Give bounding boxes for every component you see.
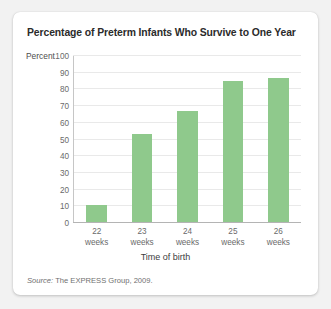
x-tick-week-number: 23 bbox=[119, 226, 164, 237]
x-tick-week-number: 25 bbox=[210, 226, 255, 237]
x-axis-tick-label: 23weeks bbox=[119, 226, 164, 248]
bar-25-weeks bbox=[223, 81, 243, 222]
x-axis-tick-labels: 22weeks23weeks24weeks25weeks26weeks bbox=[74, 226, 301, 248]
y-axis-tick-label: 70 bbox=[45, 102, 69, 111]
x-tick-unit: weeks bbox=[165, 237, 210, 248]
x-axis-tick-label: 22weeks bbox=[74, 226, 119, 248]
x-tick-week-number: 24 bbox=[165, 226, 210, 237]
x-axis-tick-label: 26weeks bbox=[256, 226, 301, 248]
source-label: Source: bbox=[27, 276, 53, 285]
y-axis-tick-label: 30 bbox=[45, 168, 69, 177]
bar-slot bbox=[119, 56, 164, 222]
y-axis-tick-label: 100 bbox=[45, 52, 69, 61]
bar-26-weeks bbox=[268, 78, 288, 222]
chart-title: Percentage of Preterm Infants Who Surviv… bbox=[27, 27, 312, 38]
x-tick-unit: weeks bbox=[256, 237, 301, 248]
x-tick-unit: weeks bbox=[210, 237, 255, 248]
x-tick-week-number: 22 bbox=[74, 226, 119, 237]
bar-slot bbox=[256, 56, 301, 222]
y-axis-tick-label: 10 bbox=[45, 202, 69, 211]
x-axis-tick-label: 25weeks bbox=[210, 226, 255, 248]
bar-slot bbox=[165, 56, 210, 222]
x-axis-tick-label: 24weeks bbox=[165, 226, 210, 248]
plot-area bbox=[73, 56, 301, 223]
y-axis-tick-label: 20 bbox=[45, 185, 69, 194]
y-axis-tick-label: 80 bbox=[45, 85, 69, 94]
bar-series bbox=[74, 56, 301, 222]
bar-23-weeks bbox=[132, 134, 152, 222]
bar-22-weeks bbox=[86, 205, 106, 222]
x-axis-title: Time of birth bbox=[13, 252, 318, 262]
y-axis-tick-label: 90 bbox=[45, 68, 69, 77]
x-tick-unit: weeks bbox=[74, 237, 119, 248]
y-axis-tick-label: 50 bbox=[45, 135, 69, 144]
bar-slot bbox=[74, 56, 119, 222]
chart-card: Percentage of Preterm Infants Who Surviv… bbox=[13, 12, 318, 295]
source-value: The EXPRESS Group, 2009. bbox=[53, 276, 152, 285]
y-axis-tick-labels: 1009080706050403020100 bbox=[39, 56, 69, 223]
bar-24-weeks bbox=[177, 111, 197, 222]
y-axis-tick-label: 0 bbox=[45, 219, 69, 228]
y-axis-tick-label: 40 bbox=[45, 152, 69, 161]
x-tick-unit: weeks bbox=[119, 237, 164, 248]
source-note: Source: The EXPRESS Group, 2009. bbox=[27, 276, 153, 285]
x-tick-week-number: 26 bbox=[256, 226, 301, 237]
y-axis-tick-label: 60 bbox=[45, 118, 69, 127]
bar-slot bbox=[210, 56, 255, 222]
x-axis-line bbox=[73, 222, 301, 223]
